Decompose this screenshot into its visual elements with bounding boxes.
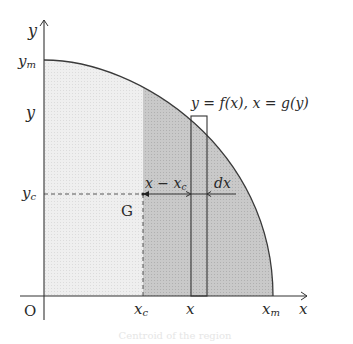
- light-region: [44, 40, 143, 296]
- y-centroid-label: yc: [21, 184, 36, 202]
- curve-equation-label: y = f(x), x = g(y): [190, 95, 309, 111]
- diagram-canvas: y ym y yc G O xc x xm x y = f(x), x = g(…: [0, 0, 353, 344]
- strip-width-label: dx: [214, 175, 231, 191]
- region-area: [44, 40, 283, 296]
- x-level-label: x: [186, 300, 195, 318]
- y-level-label: y: [25, 103, 36, 122]
- dark-region: [143, 40, 283, 296]
- y-axis-label: y: [27, 21, 38, 40]
- x-axis-label: x: [299, 300, 308, 318]
- figure-caption: Centroid of the region: [60, 330, 290, 344]
- distance-label: x − xc: [145, 175, 186, 192]
- centroid-point-icon: [141, 192, 144, 195]
- x-centroid-label: xc: [134, 300, 148, 318]
- y-max-label: ym: [17, 52, 36, 70]
- origin-label: O: [24, 302, 36, 320]
- x-max-label: xm: [262, 300, 280, 318]
- centroid-label: G: [121, 202, 133, 220]
